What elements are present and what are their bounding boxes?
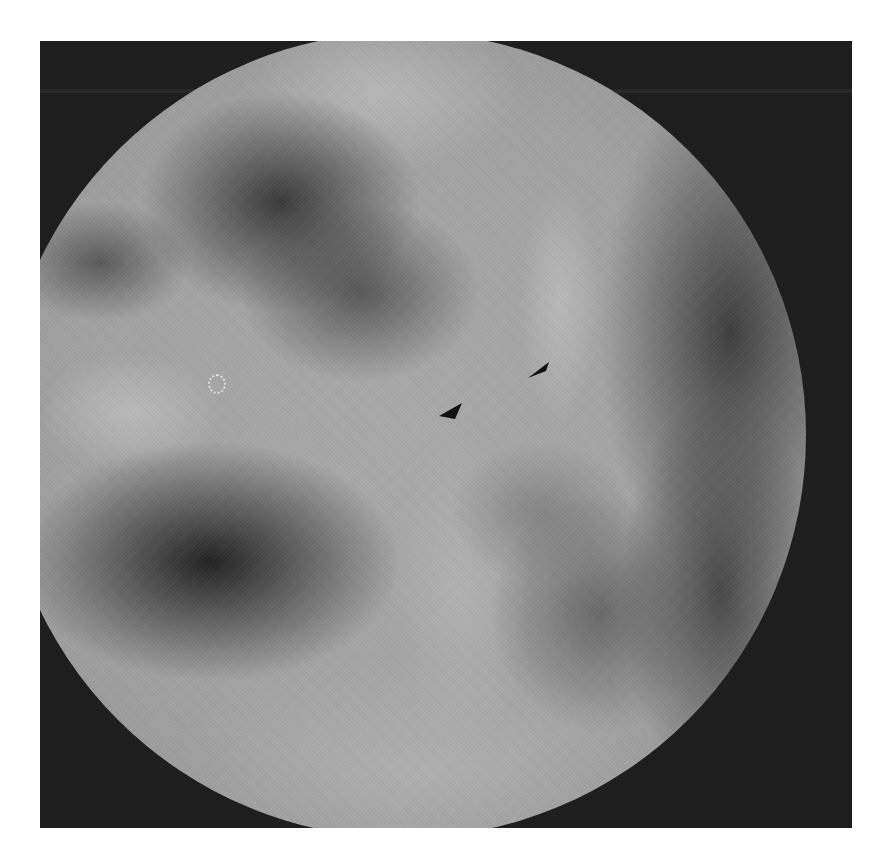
image-frame <box>40 41 852 828</box>
endoscopic-field-of-view <box>40 41 806 828</box>
specular-artifact <box>208 374 226 394</box>
figure-page <box>0 0 887 862</box>
